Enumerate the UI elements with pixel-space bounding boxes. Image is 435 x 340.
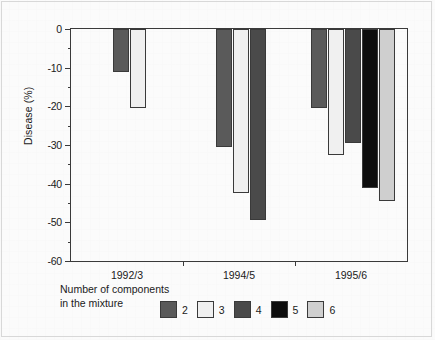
y-tick-label: -10: [47, 62, 62, 74]
bar-1995-6-series-6: [379, 29, 395, 201]
y-tick-label: -40: [47, 178, 62, 190]
legend-label-2: 2: [182, 304, 188, 316]
legend-item-2: 2: [160, 301, 188, 318]
legend-item-3: 3: [197, 301, 225, 318]
legend-item-5: 5: [271, 301, 299, 318]
legend-label-5: 5: [293, 304, 299, 316]
legend-swatch-3: [197, 301, 214, 318]
x-axis-label-1994-5: 1994/5: [223, 269, 255, 281]
legend-item-6: 6: [307, 301, 335, 318]
y-axis-title: Disease (%): [22, 87, 34, 145]
legend-label-4: 4: [256, 304, 262, 316]
y-tick-label: -30: [47, 139, 62, 151]
bar-1995-6-series-2: [311, 29, 327, 108]
y-tick-major: [65, 261, 71, 262]
bars-layer: [71, 29, 407, 261]
legend-swatch-2: [160, 301, 177, 318]
legend-swatch-4: [234, 301, 251, 318]
legend-items: 23456: [160, 301, 344, 318]
y-tick-label: -60: [47, 255, 62, 267]
bar-1994-5-series-2: [216, 29, 232, 147]
legend-label-6: 6: [329, 304, 335, 316]
x-tick: [295, 261, 296, 266]
x-axis-label-1992-3: 1992/3: [111, 269, 143, 281]
bar-1994-5-series-3: [233, 29, 249, 193]
legend-item-4: 4: [234, 301, 262, 318]
legend-swatch-6: [307, 301, 324, 318]
legend-label-3: 3: [219, 304, 225, 316]
bar-1995-6-series-4: [345, 29, 361, 143]
x-tick: [183, 261, 184, 266]
figure-canvas: Disease (%) 0-10-20-30-40-50-60 1992/319…: [0, 0, 435, 340]
bar-1992-3-series-3: [130, 29, 146, 108]
bar-1992-3-series-2: [113, 29, 129, 72]
plot-area: 0-10-20-30-40-50-60 1992/31994/51995/6: [70, 28, 408, 262]
y-tick-label: -20: [47, 100, 62, 112]
y-tick-label: -50: [47, 216, 62, 228]
legend: Number of components in the mixture 2345…: [60, 283, 420, 329]
legend-swatch-5: [271, 301, 288, 318]
y-tick-label: 0: [56, 23, 62, 35]
x-axis-label-1995-6: 1995/6: [335, 269, 367, 281]
bar-1994-5-series-4: [250, 29, 266, 220]
bar-1995-6-series-3: [328, 29, 344, 155]
bar-1995-6-series-5: [362, 29, 378, 188]
legend-title: Number of components in the mixture: [60, 283, 169, 310]
